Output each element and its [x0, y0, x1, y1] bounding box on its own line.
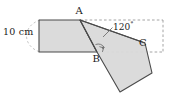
vertex-label-a: A	[76, 6, 83, 16]
vertex-label-b: B	[93, 54, 100, 64]
figure-canvas	[0, 0, 175, 99]
angle-value: 120	[113, 22, 130, 32]
degree-symbol: °	[130, 20, 133, 28]
vertex-label-c: C	[139, 38, 147, 48]
dimension-label: 10 cm	[3, 27, 33, 37]
angle-label: 120°	[113, 21, 133, 32]
geometry-figure: 10 cm A B C 120°	[0, 0, 175, 99]
